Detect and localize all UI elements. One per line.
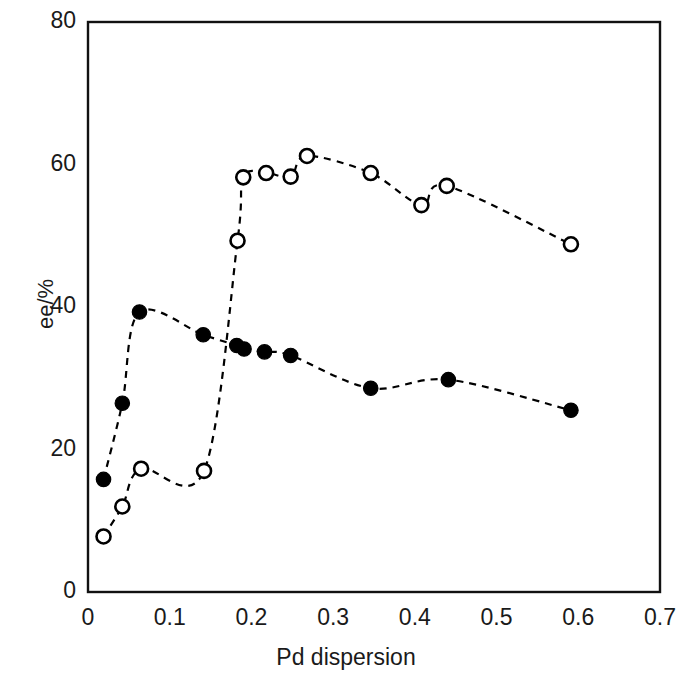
data-point-filled-circles [364, 381, 378, 395]
plot-frame [88, 22, 660, 592]
y-tick-label: 20 [50, 435, 76, 462]
y-tick-label: 60 [50, 150, 76, 177]
series-filled-circles [96, 305, 578, 487]
data-point-open-circles [236, 170, 250, 184]
data-point-filled-circles [257, 345, 271, 359]
y-axis-label: ee/% [33, 244, 59, 364]
chart-figure: 02040608000.10.20.30.40.50.60.7 ee/% Pd … [0, 0, 692, 686]
trend-line-open-circles [104, 156, 571, 537]
data-point-open-circles [564, 237, 578, 251]
x-tick-label: 0.7 [620, 604, 692, 631]
data-point-open-circles [134, 462, 148, 476]
x-tick-label: 0.6 [538, 604, 618, 631]
data-point-filled-circles [441, 372, 455, 386]
y-tick-label: 0 [63, 577, 76, 604]
y-tick-label: 80 [50, 7, 76, 34]
data-point-filled-circles [96, 472, 110, 486]
data-point-open-circles [197, 464, 211, 478]
x-tick-label: 0.4 [375, 604, 455, 631]
data-point-filled-circles [196, 328, 210, 342]
trend-line-filled-circles [104, 309, 571, 479]
x-tick-label: 0.5 [457, 604, 537, 631]
data-point-open-circles [414, 198, 428, 212]
data-point-open-circles [231, 234, 245, 248]
x-tick-label: 0.3 [293, 604, 373, 631]
series-open-circles [97, 149, 578, 543]
data-point-filled-circles [115, 396, 129, 410]
data-point-open-circles [259, 166, 273, 180]
scatter-plot [0, 0, 692, 686]
data-point-filled-circles [283, 348, 297, 362]
data-point-open-circles [115, 500, 129, 514]
data-point-open-circles [300, 149, 314, 163]
x-axis-label: Pd dispersion [0, 644, 692, 671]
data-point-open-circles [284, 170, 298, 184]
data-point-open-circles [364, 166, 378, 180]
x-tick-label: 0 [48, 604, 128, 631]
x-tick-label: 0.2 [211, 604, 291, 631]
x-tick-label: 0.1 [130, 604, 210, 631]
data-point-filled-circles [564, 403, 578, 417]
data-point-filled-circles [237, 342, 251, 356]
data-point-filled-circles [132, 305, 146, 319]
data-point-open-circles [440, 179, 454, 193]
data-point-open-circles [97, 529, 111, 543]
